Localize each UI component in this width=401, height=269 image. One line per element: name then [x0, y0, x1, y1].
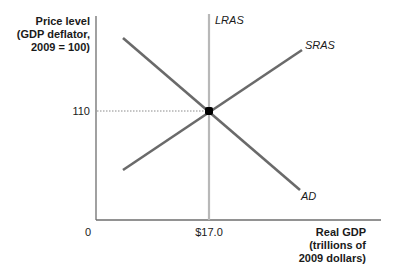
ad-as-chart: Price level (GDP deflator, 2009 = 100) 1…: [0, 0, 401, 269]
lras-label: LRAS: [215, 14, 244, 26]
x-axis-title-line3: 2009 dollars): [299, 252, 367, 264]
y-axis-title-line1: Price level: [36, 15, 90, 27]
x-axis-title-line2: (trillions of: [309, 239, 366, 251]
equilibrium-point: [205, 107, 213, 115]
x-axis-title-line1: Real GDP: [316, 226, 366, 238]
x-tick-17: $17.0: [195, 226, 223, 238]
ad-label: AD: [300, 190, 316, 202]
sras-label: SRAS: [305, 39, 336, 51]
y-axis-title-line2: (GDP deflator,: [17, 28, 90, 40]
y-tick-110: 110: [72, 105, 90, 117]
origin-label: 0: [85, 226, 91, 238]
y-axis-title-line3: 2009 = 100): [31, 41, 90, 53]
